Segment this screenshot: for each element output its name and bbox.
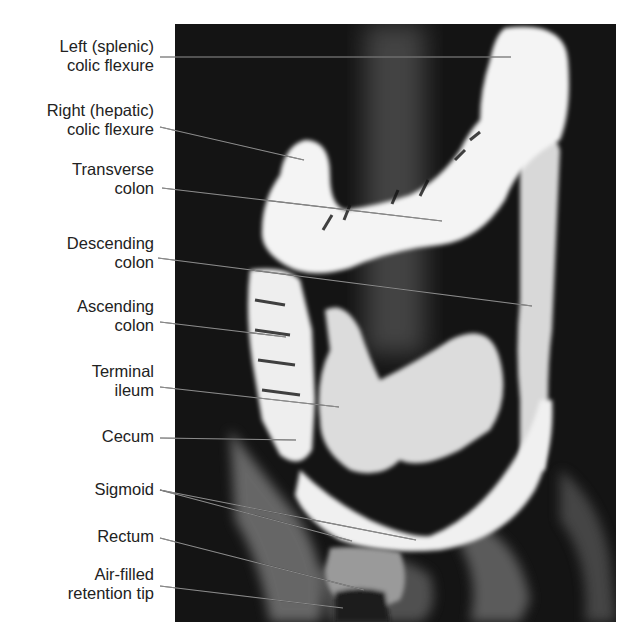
label-transverse-colon: Transverse colon: [72, 160, 154, 198]
label-line: ileum: [92, 381, 154, 400]
label-sigmoid: Sigmoid: [94, 480, 154, 499]
label-line: Rectum: [97, 527, 154, 546]
label-descending-colon: Descending colon: [67, 234, 154, 272]
leader-line-highlight-sigmoid: [160, 490, 352, 541]
label-line: colic flexure: [47, 120, 154, 139]
label-cecum: Cecum: [102, 427, 154, 446]
label-right-hepatic-flexure: Right (hepatic) colic flexure: [47, 101, 154, 139]
leader-line-highlight-sigmoid: [160, 490, 416, 540]
label-line: Cecum: [102, 427, 154, 446]
label-line: Sigmoid: [94, 480, 154, 499]
label-line: Descending: [67, 234, 154, 253]
label-line: retention tip: [68, 584, 154, 603]
figure: Left (splenic) colic flexure Right (hepa…: [0, 0, 631, 632]
leader-line-highlight-rectum: [160, 538, 364, 590]
label-line: Ascending: [77, 297, 154, 316]
label-line: Right (hepatic): [47, 101, 154, 120]
label-line: Transverse: [72, 160, 154, 179]
leader-line-highlight-descending-colon: [158, 258, 532, 306]
label-line: Terminal: [92, 362, 154, 381]
leader-line-highlight-air-filled-retention-tip: [160, 586, 343, 608]
label-ascending-colon: Ascending colon: [77, 297, 154, 335]
label-line: Left (splenic): [60, 37, 154, 56]
label-rectum: Rectum: [97, 527, 154, 546]
label-line: Air-filled: [68, 565, 154, 584]
label-line: colon: [67, 253, 154, 272]
label-line: colon: [72, 179, 154, 198]
leader-line-highlight-ascending-colon: [160, 322, 286, 337]
label-terminal-ileum: Terminal ileum: [92, 362, 154, 400]
leader-line-highlight-cecum: [160, 438, 296, 440]
label-line: colon: [77, 316, 154, 335]
label-line: colic flexure: [60, 56, 154, 75]
leader-line-highlight-right-hepatic-flexure: [160, 127, 304, 160]
label-left-splenic-flexure: Left (splenic) colic flexure: [60, 37, 154, 75]
leader-line-highlight-transverse-colon: [162, 188, 442, 221]
leader-line-highlight-terminal-ileum: [160, 387, 339, 407]
label-air-filled-retention-tip: Air-filled retention tip: [68, 565, 154, 603]
